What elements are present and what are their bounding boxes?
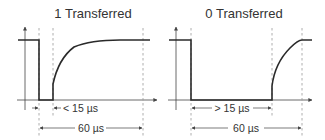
short-duration-label: > 15 µs <box>215 102 250 114</box>
diagram-1-transferred: 1 Transferred < 15 µs 60 µs <box>17 6 157 136</box>
diagram-title: 1 Transferred <box>54 6 131 21</box>
diagram-title: 0 Transferred <box>205 6 282 21</box>
long-duration-label: 60 µs <box>78 122 104 134</box>
diagram-0-transferred: 0 Transferred > 15 µs 60 µs <box>168 6 312 136</box>
long-duration-label: 60 µs <box>233 122 259 134</box>
signal-waveform <box>169 40 312 100</box>
signal-waveform <box>18 40 150 100</box>
short-duration-label: < 15 µs <box>63 102 98 114</box>
